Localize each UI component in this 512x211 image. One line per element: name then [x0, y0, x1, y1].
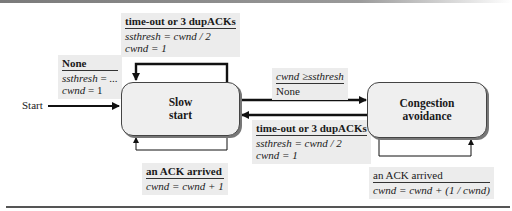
ss-timeout-event: time-out or 3 dupACKs	[125, 15, 236, 29]
state-slow-start-line2: start	[169, 109, 192, 122]
ca-to-ss-action-1: ssthresh = cwnd / 2	[256, 137, 367, 149]
state-slow-start-line1: Slow	[169, 96, 193, 109]
state-ca-line2: avoidance	[402, 110, 451, 123]
ss-ack-action-1: cwnd = cwnd + 1	[146, 180, 224, 192]
ss-timeout-action-2: cwnd = 1	[125, 42, 236, 54]
bottom-rule	[6, 206, 510, 208]
start-label: Start	[22, 99, 43, 111]
ss-to-ca-event: cwnd ≥ssthresh	[276, 70, 344, 84]
ss-ack-event: an ACK arrived	[146, 165, 224, 179]
ca-to-ss-event: time-out or 3 dupACKs	[256, 122, 367, 136]
state-congestion-avoidance: Congestion avoidance	[367, 82, 487, 138]
ca-ack-event: an ACK arrived	[373, 169, 490, 183]
ca-ack-label: an ACK arrived cwnd = cwnd + (1 / cwnd)	[369, 167, 494, 199]
ca-ack-loop-arrow	[379, 138, 471, 156]
state-ca-line1: Congestion	[400, 97, 455, 110]
initial-transition-label: None ssthresh = ... cwnd = 1	[58, 55, 122, 99]
ss-to-ca-label: cwnd ≥ssthresh None	[272, 68, 348, 100]
ss-timeout-loop-arrow	[136, 64, 227, 82]
ss-timeout-action-1: ssthresh = cwnd / 2	[125, 30, 236, 42]
ss-ack-label: an ACK arrived cwnd = cwnd + 1	[142, 163, 228, 195]
initial-event: None	[62, 57, 118, 71]
ss-ack-loop-arrow	[136, 137, 227, 150]
ca-ack-action-1: cwnd = cwnd + (1 / cwnd)	[373, 184, 490, 196]
ca-to-ss-label: time-out or 3 dupACKs ssthresh = cwnd / …	[252, 120, 371, 164]
ss-to-ca-action-1: None	[276, 85, 344, 97]
ca-to-ss-action-2: cwnd = 1	[256, 149, 367, 161]
state-slow-start: Slow start	[121, 82, 240, 136]
initial-action-cwnd: cwnd = 1	[62, 84, 118, 96]
ss-timeout-label: time-out or 3 dupACKs ssthresh = cwnd / …	[121, 13, 240, 57]
initial-action-ssthresh: ssthresh = ...	[62, 72, 118, 84]
